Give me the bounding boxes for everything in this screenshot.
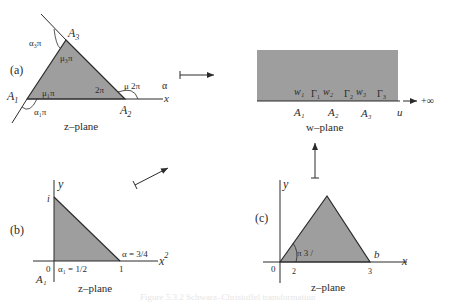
origin-label-c: 0 (271, 264, 276, 274)
panel-b-tag: (b) (10, 223, 24, 237)
y-axis-label-c: y (282, 177, 289, 191)
panel-a-tag: (a) (10, 63, 23, 77)
alpha2-label-b: α = 3/4 (122, 249, 148, 259)
point-w3: w₃ (356, 86, 367, 97)
panel-b: (b) y i α = 3/4 x2 0 α₁ = 1/2 1 A₁ z–pla… (10, 177, 168, 294)
point-gamma1: Γ₁ (311, 88, 320, 99)
figure-caption: Figure 5.3.2 Schwarz–Christoffel transfo… (140, 292, 316, 302)
origin-label-b: 0 (46, 264, 51, 274)
panel-a: (a) A3 A1 A2 α₃π μ₃π μ₁π 2π μ 2π α₁π α x… (6, 14, 169, 132)
vertex-a1-b: A₁ (35, 273, 47, 285)
panel-c: (c) y π 3 / b x 0 2 3 z–plane (255, 177, 408, 293)
panel-w: +∞ w₁ Γ₁ w₂ Γ₂ w₃ Γ₃ A₁ A₂ A₃ u w–plane (257, 50, 434, 133)
point-w1: w₁ (294, 86, 304, 97)
angle-label-c: π 3 / (297, 248, 314, 258)
plane-label-a: z–plane (64, 120, 98, 132)
u-axis-label: u (397, 106, 403, 118)
x-axis-label-a: x (163, 92, 169, 104)
plane-label-b: z–plane (78, 282, 112, 294)
alpha-label-a: α (162, 80, 168, 91)
i-label: i (47, 193, 50, 204)
tick-2-label-c: 2 (292, 267, 296, 276)
exterior-angle-alpha1: α₁π (34, 107, 47, 117)
vertex-a3-w: A₃ (360, 107, 372, 119)
mapsto-arrow-c (311, 143, 319, 178)
plane-label-w: w–plane (306, 121, 343, 133)
angle-arc-a3 (54, 29, 60, 48)
one-label-b: 1 (119, 264, 124, 274)
conformal-mapping-diagram: (a) A3 A1 A2 α₃π μ₃π μ₁π 2π μ 2π α₁π α x… (0, 0, 451, 305)
point-gamma2: Γ₂ (344, 88, 353, 99)
mapsto-arrow-b (133, 168, 168, 189)
mapsto-arrow-a (180, 71, 214, 79)
triangle-c (280, 196, 370, 262)
alpha1-label-b: α₁ = 1/2 (58, 264, 87, 274)
exterior-angle-alpha3: α₃π (29, 38, 42, 48)
point-w2: w₂ (323, 86, 334, 97)
x-axis-label-c: x (401, 254, 408, 268)
exterior-angle-alpha2: μ 2π (124, 81, 141, 91)
point-gamma3: Γ₃ (377, 88, 386, 99)
infinity-label: +∞ (421, 95, 434, 106)
interior-angle-mu1: μ₁π (42, 88, 55, 98)
vertex-a1-label: A1 (6, 89, 18, 105)
vertex-a3-label: A3 (67, 26, 79, 42)
y-axis-label-b: y (57, 177, 64, 191)
vertex-a1-w: A₁ (293, 106, 305, 118)
tick-3-label-c: 3 (368, 267, 372, 276)
x-axis-label-b: x2 (158, 251, 168, 268)
panel-c-tag: (c) (255, 211, 268, 225)
interior-angle-mu2: 2π (95, 85, 105, 95)
interior-angle-mu3: μ₃π (60, 53, 73, 63)
vertex-a2-label: A2 (119, 103, 131, 119)
b-label-c: b (374, 248, 380, 260)
vertex-a2-w: A₂ (327, 106, 339, 118)
plane-label-c: z–plane (311, 281, 345, 293)
edge-extension-a3 (41, 14, 66, 40)
